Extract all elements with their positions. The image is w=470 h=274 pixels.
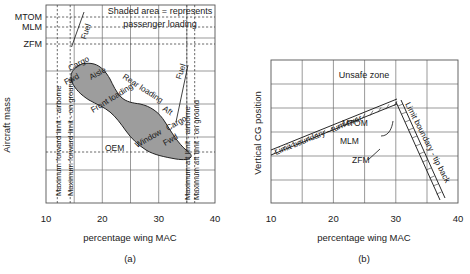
panel-b-xtick-10: 10	[266, 213, 277, 224]
panel-a-xtick-10: 10	[41, 213, 52, 224]
panel-a: Aircraft mass MTOM MLM ZFM 10 20 30 40 p…	[1, 5, 220, 264]
label-unsafe-zone: Unsafe zone	[339, 70, 390, 80]
label-aft: Aft	[161, 104, 175, 117]
panel-b-xtick-40: 40	[453, 213, 464, 224]
label-zfm-b: ZFM	[352, 155, 369, 165]
panel-b-xtick-20: 20	[328, 213, 339, 224]
panel-a-ytick-zfm: ZFM	[24, 39, 43, 49]
shaded-area-note-line1: Shaded area = represents	[108, 6, 213, 16]
panel-a-xtick-30: 30	[153, 213, 164, 224]
figure-container: Aircraft mass MTOM MLM ZFM 10 20 30 40 p…	[0, 0, 470, 274]
label-fuel-right: Fuel	[174, 63, 188, 81]
label-max-forward-limit-airborne: Maximum forward limit - airborne	[54, 85, 63, 196]
panel-b-ylabel: Vertical CG position	[252, 91, 263, 174]
panel-a-ytick-mlm: MLM	[22, 22, 42, 32]
panel-b-xtick-30: 30	[391, 213, 402, 224]
shaded-area-note-line2: passenger loading	[123, 19, 197, 29]
zfm-leader	[368, 149, 380, 160]
panel-a-xtick-40: 40	[210, 213, 221, 224]
label-max-aft-limit-on-ground: Maximum aft limit - on ground	[192, 100, 201, 200]
panel-b-gridlines	[271, 60, 458, 203]
mlm-zfm-leader	[381, 121, 393, 136]
label-oem: OEM	[105, 143, 124, 153]
label-mlm-b: MLM	[340, 136, 359, 146]
panel-b-label: (b)	[358, 253, 370, 264]
panel-a-ytick-mtom: MTOM	[15, 12, 42, 22]
panel-a-xlabel: percentage wing MAC	[83, 232, 177, 243]
panel-a-label: (a)	[124, 253, 136, 264]
label-mtom-b: MTOM	[342, 118, 368, 128]
panel-b-xlabel: percentage wing MAC	[317, 232, 411, 243]
figure-svg: Aircraft mass MTOM MLM ZFM 10 20 30 40 p…	[0, 0, 470, 274]
limit-boundary-tip-back	[396, 100, 445, 200]
panel-a-xtick-20: 20	[97, 213, 108, 224]
panel-b: Vertical CG position 10 20 30 40 percent…	[252, 60, 463, 264]
label-max-forward-limit-on-ground: Maximum forward limit - on ground	[66, 79, 75, 196]
panel-a-ylabel: Aircraft mass	[1, 97, 12, 153]
